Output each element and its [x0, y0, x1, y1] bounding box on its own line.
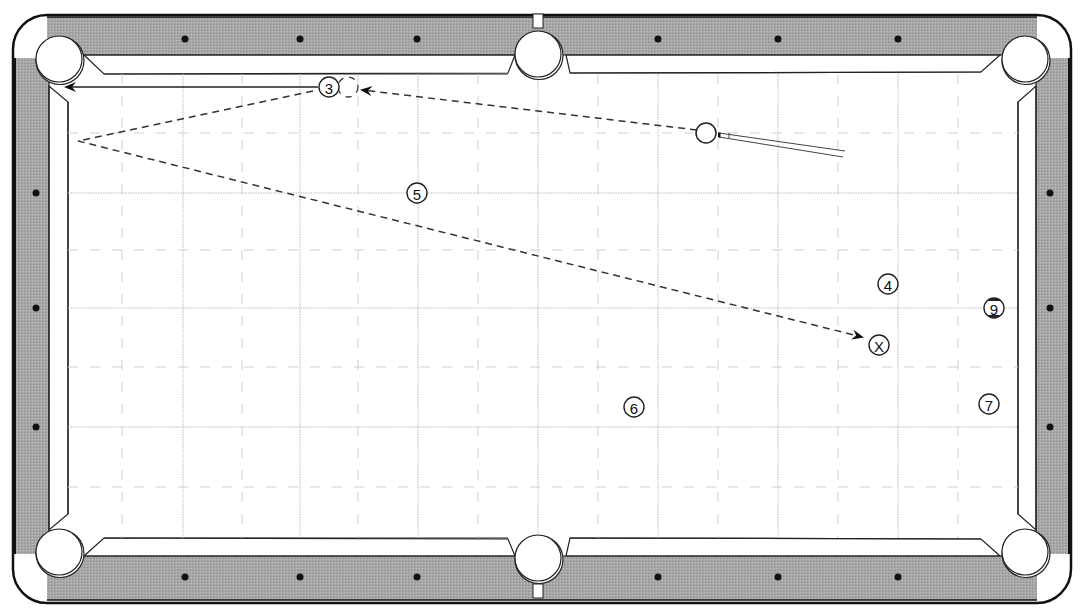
diamond-marker: [655, 36, 662, 43]
diamond-marker: [414, 36, 421, 43]
diamond-marker: [775, 574, 782, 581]
table-frame: [13, 15, 1071, 603]
ball-4: 4: [878, 274, 898, 294]
ball-9: 9: [984, 298, 1004, 318]
ball-number: 6: [630, 400, 638, 417]
diamond-marker: [1047, 305, 1054, 312]
ball-5: 5: [407, 183, 427, 203]
diamond-marker: [895, 574, 902, 581]
pool-table: 354967X: [0, 0, 1084, 612]
ball-number: 3: [325, 80, 333, 97]
pool-table-diagram: 354967X: [0, 0, 1084, 612]
diamond-marker: [895, 36, 902, 43]
diamond-marker: [182, 36, 189, 43]
diamond-marker: [297, 36, 304, 43]
diamond-marker: [33, 190, 40, 197]
diamond-marker: [1047, 424, 1054, 431]
diamond-marker: [182, 574, 189, 581]
pocket-top-right: [1002, 36, 1050, 85]
ball-number: 9: [990, 301, 998, 318]
diamond-marker: [414, 574, 421, 581]
ball-7: 7: [979, 394, 999, 414]
cue-ball: [696, 123, 716, 143]
diamond-marker: [655, 574, 662, 581]
diamond-marker: [775, 36, 782, 43]
ball-number: 4: [884, 277, 892, 294]
ball-number: 7: [985, 397, 993, 414]
pocket-bottom-right: [1002, 529, 1050, 578]
diamond-marker: [33, 424, 40, 431]
target-label: X: [874, 338, 884, 355]
ball-number: 5: [413, 186, 421, 203]
diamond-marker: [1047, 190, 1054, 197]
target-marker: X: [869, 335, 889, 355]
ball-6: 6: [624, 397, 644, 417]
diamond-marker: [297, 574, 304, 581]
ball-3: 3: [319, 77, 339, 97]
pocket-top-left: [36, 36, 84, 85]
diamond-marker: [33, 305, 40, 312]
pocket-bottom-left: [36, 529, 84, 578]
